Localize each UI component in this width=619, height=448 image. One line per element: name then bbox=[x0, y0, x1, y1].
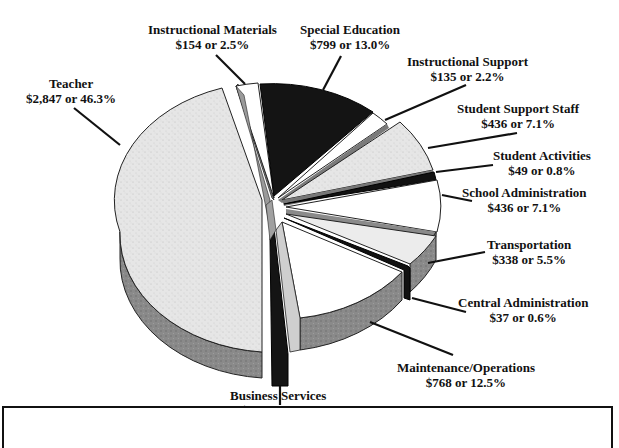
label-student-support-staff-name: Student Support Staff bbox=[457, 101, 579, 116]
label-teacher-name: Teacher bbox=[26, 76, 116, 91]
label-instructional-support-value: $135 or 2.2% bbox=[407, 69, 528, 84]
label-maintenance-operations: Maintenance/Operations $768 or 12.5% bbox=[397, 360, 535, 390]
label-student-support-staff-value: $436 or 7.1% bbox=[457, 116, 579, 131]
label-instructional-materials: Instructional Materials $154 or 2.5% bbox=[148, 22, 277, 52]
label-instructional-materials-value: $154 or 2.5% bbox=[148, 37, 277, 52]
label-special-education-name: Special Education bbox=[300, 22, 400, 37]
label-student-activities: Student Activities $49 or 0.8% bbox=[493, 148, 591, 178]
label-transportation-name: Transportation bbox=[487, 237, 571, 252]
label-instructional-support: Instructional Support $135 or 2.2% bbox=[407, 54, 528, 84]
label-central-administration-name: Central Administration bbox=[458, 295, 588, 310]
label-student-activities-name: Student Activities bbox=[493, 148, 591, 163]
label-central-administration-value: $37 or 0.6% bbox=[458, 310, 588, 325]
label-student-activities-value: $49 or 0.8% bbox=[493, 163, 591, 178]
label-school-administration-name: School Administration bbox=[462, 185, 587, 200]
label-instructional-materials-name: Instructional Materials bbox=[148, 22, 277, 37]
label-student-support-staff: Student Support Staff $436 or 7.1% bbox=[457, 101, 579, 131]
label-special-education-value: $799 or 13.0% bbox=[300, 37, 400, 52]
caption-box bbox=[2, 406, 613, 448]
slice-teacher bbox=[114, 88, 262, 378]
label-teacher-value: $2,847 or 46.3% bbox=[26, 91, 116, 106]
label-transportation: Transportation $338 or 5.5% bbox=[487, 237, 571, 267]
label-instructional-support-name: Instructional Support bbox=[407, 54, 528, 69]
label-school-administration: School Administration $436 or 7.1% bbox=[462, 185, 587, 215]
label-maintenance-operations-value: $768 or 12.5% bbox=[397, 375, 535, 390]
label-special-education: Special Education $799 or 13.0% bbox=[300, 22, 400, 52]
label-maintenance-operations-name: Maintenance/Operations bbox=[397, 360, 535, 375]
label-school-administration-value: $436 or 7.1% bbox=[462, 200, 587, 215]
label-business-services-name: Business Services bbox=[230, 388, 326, 403]
label-teacher: Teacher $2,847 or 46.3% bbox=[26, 76, 116, 106]
label-transportation-value: $338 or 5.5% bbox=[487, 252, 571, 267]
label-central-administration: Central Administration $37 or 0.6% bbox=[458, 295, 588, 325]
